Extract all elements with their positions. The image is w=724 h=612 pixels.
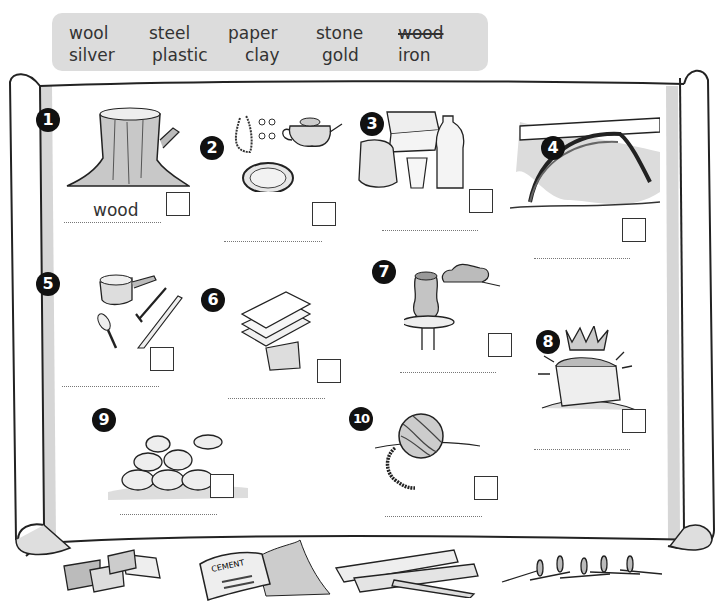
answer-checkbox[interactable] [474,476,498,500]
answer-line[interactable] [228,398,325,399]
answer-line[interactable] [62,386,159,387]
steel-cutlery-icon [92,266,187,350]
word-bank-word: wool [69,23,108,43]
answer-line[interactable] [385,516,482,517]
word-bank-word: iron [398,45,431,65]
item-number-badge: 2 [200,136,224,160]
word-bank-word: steel [149,23,190,43]
item-number-badge: 5 [36,272,60,296]
silver-items-icon [232,112,347,192]
item-number-badge: 1 [36,108,60,132]
paper-sheets-icon [238,288,318,372]
item-number-badge: 7 [372,260,396,284]
word-bank-word: plastic [152,45,208,65]
cement-bag-icon: CEMENT [196,538,331,602]
bricks-icon [60,544,165,600]
answer-checkbox[interactable] [150,347,174,371]
answer-checkbox[interactable] [622,218,646,242]
answer-line[interactable] [534,258,630,259]
answer-text: wood [93,200,139,220]
answer-line[interactable] [382,230,478,231]
answer-line[interactable] [64,222,161,223]
iron-bridge-icon [510,112,660,212]
word-bank-word: gold [322,45,359,65]
tree-stump-icon [65,100,190,195]
answer-checkbox[interactable] [312,202,336,226]
answer-checkbox[interactable] [210,474,234,498]
word-bank-word: paper [228,23,277,43]
word-bank-word-struck: wood [398,23,444,43]
answer-checkbox[interactable] [469,189,493,213]
ball-of-wool-icon [375,412,485,497]
item-number-badge: 4 [541,136,565,160]
answer-checkbox[interactable] [622,409,646,433]
answer-line[interactable] [224,241,322,242]
answer-line[interactable] [534,449,630,450]
plastic-items-icon [355,108,465,193]
answer-line[interactable] [120,514,217,515]
answer-checkbox[interactable] [166,192,190,216]
word-bank-word: silver [69,45,115,65]
word-bank-word: clay [245,45,280,65]
item-number-badge: 6 [201,288,225,312]
word-bank-word: stone [316,23,363,43]
item-number-badge: 10 [349,407,373,431]
answer-line[interactable] [400,372,496,373]
answer-checkbox[interactable] [488,333,512,357]
answer-checkbox[interactable] [317,359,341,383]
word-bank: wool steel paper stone wood silver plast… [52,13,488,71]
nails-icon [500,550,665,590]
wooden-planks-icon [334,548,484,598]
item-number-badge: 8 [536,330,560,354]
